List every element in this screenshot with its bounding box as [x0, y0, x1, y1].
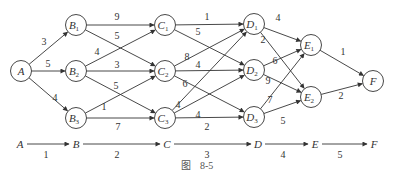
edge-weight-label: 3 [42, 36, 47, 47]
edge-weight-label: 5 [46, 58, 51, 69]
edge-weight-label: 4 [53, 92, 58, 103]
stage-label-e: E [311, 138, 319, 150]
node-c3: C3 [155, 108, 176, 129]
caption-number: 8-5 [200, 160, 213, 171]
edge-weight-label: 1 [205, 11, 210, 22]
edge-weights-layer: 35495435171584644242697512 [42, 11, 346, 132]
stage-label-b: B [73, 138, 80, 150]
edge-weight-label: 9 [115, 11, 120, 22]
node-e2: E2 [301, 87, 322, 108]
multistage-graph-figure: 35495435171584644242697512 AB1B2B3C1C2C3… [0, 0, 394, 187]
node-label: F [369, 75, 377, 87]
stage-label-d: D [253, 138, 262, 150]
edge-weight-label: 4 [196, 59, 201, 70]
edge-weight-label: 6 [183, 78, 188, 89]
edge-weight-label: 4 [196, 109, 201, 120]
node-c2: C2 [155, 61, 176, 82]
edge-weight-label: 2 [205, 121, 210, 132]
edge-d2-e1 [264, 49, 301, 65]
stage-label-f: F [370, 138, 378, 150]
edge-weight-label: 7 [116, 121, 121, 132]
stage-step-number: 1 [44, 149, 49, 160]
node-e1: E1 [301, 35, 322, 56]
stage-step-number: 3 [205, 149, 210, 160]
stage-step-number: 4 [281, 149, 286, 160]
node-a: A [11, 61, 32, 82]
edge-weight-label: 2 [339, 90, 344, 101]
edge-d1-e1 [264, 28, 301, 42]
stage-sequence-line: ABCDEF12345 [16, 138, 378, 160]
stage-step-number: 2 [115, 149, 120, 160]
edge-weight-label: 8 [185, 51, 190, 62]
edge-weight-label: 1 [341, 46, 346, 57]
edge-weight-label: 5 [115, 30, 120, 41]
figure-caption: 图 8-5 [181, 160, 213, 171]
edge-c3-d3 [176, 117, 244, 118]
node-c1: C1 [155, 15, 176, 36]
node-b3: B3 [66, 108, 87, 129]
edge-weight-label: 2 [261, 34, 266, 45]
stage-step-number: 5 [338, 149, 343, 160]
caption-prefix: 图 [181, 160, 191, 171]
node-d2: D2 [244, 60, 265, 81]
edge-weight-label: 6 [273, 55, 278, 66]
network-diagram: 35495435171584644242697512 AB1B2B3C1C2C3… [0, 0, 394, 187]
node-b1: B1 [66, 15, 87, 36]
node-d1: D1 [244, 14, 265, 35]
edge-c1-d1 [176, 24, 244, 25]
edge-a-b3 [29, 78, 68, 111]
edge-weight-label: 4 [176, 99, 181, 110]
edge-weight-label: 4 [95, 46, 100, 57]
node-d3: D3 [244, 107, 265, 128]
edge-weight-label: 3 [115, 59, 120, 70]
stage-label-c: C [163, 138, 171, 150]
stage-label-a: A [16, 138, 24, 150]
edge-weight-label: 1 [102, 101, 107, 112]
edge-weight-label: 5 [114, 80, 119, 91]
node-f: F [363, 71, 384, 92]
edge-weight-label: 7 [268, 94, 273, 105]
edge-weight-label: 5 [281, 115, 286, 126]
edge-weight-label: 4 [276, 12, 281, 23]
edge-weight-label: 9 [266, 75, 271, 86]
node-label: A [17, 65, 25, 77]
node-b2: B2 [66, 61, 87, 82]
edge-weight-label: 5 [196, 26, 201, 37]
